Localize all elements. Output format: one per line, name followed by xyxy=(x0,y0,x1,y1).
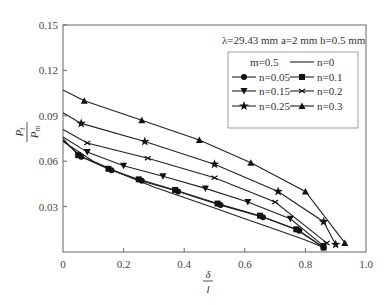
svg-text:n=0.15: n=0.15 xyxy=(259,85,290,97)
y-tick-label: 0.03 xyxy=(39,201,59,213)
x-tick-label: 0.2 xyxy=(117,258,131,270)
x-tick-label: 0.8 xyxy=(299,258,313,270)
svg-text:n=0: n=0 xyxy=(317,56,335,68)
x-tick-label: 1.0 xyxy=(359,258,373,270)
y-tick-label: 0.09 xyxy=(39,110,59,122)
svg-text:Pm: Pm xyxy=(28,126,42,140)
legend-header: m=0.5 xyxy=(250,56,279,68)
y-tick-label: 0.15 xyxy=(39,19,59,31)
legend: m=0.5n=0n=0.05n=0.1n=0.15n=0.2n=0.25n=0.… xyxy=(228,52,358,128)
svg-text:n=0.1: n=0.1 xyxy=(317,71,342,83)
parameter-annotation: λ=29.43 mm a=2 mm h=0.5 mm xyxy=(222,34,366,46)
svg-text:n=0.05: n=0.05 xyxy=(259,71,290,83)
y-tick-label: 0.06 xyxy=(39,155,59,167)
x-tick-label: 0.4 xyxy=(177,258,191,270)
svg-text:n=0.2: n=0.2 xyxy=(317,85,342,97)
line-chart: 00.20.40.60.81.00.030.060.090.120.15δlPt… xyxy=(0,0,384,305)
x-tick-label: 0.6 xyxy=(238,258,252,270)
svg-text:δ: δ xyxy=(205,268,211,280)
svg-text:Pt: Pt xyxy=(13,127,27,138)
y-tick-label: 0.12 xyxy=(39,64,58,76)
svg-text:n=0.25: n=0.25 xyxy=(259,100,290,112)
x-tick-label: 0 xyxy=(60,258,66,270)
series-n-0-15 xyxy=(63,137,327,249)
x-axis-label: δl xyxy=(203,268,213,295)
svg-text:n=0.3: n=0.3 xyxy=(317,100,343,112)
y-axis-label: PtPm xyxy=(13,122,42,142)
svg-text:l: l xyxy=(206,283,209,295)
